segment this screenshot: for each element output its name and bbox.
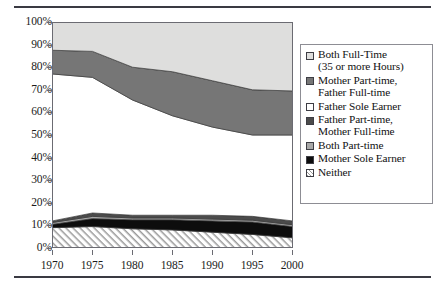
legend-item-father-sole-earner[interactable]: Father Sole Earner <box>306 100 430 112</box>
x-axis-tick-label: 1995 <box>232 259 272 271</box>
y-axis-tick-label: 40% <box>6 152 52 163</box>
x-axis: 1970197519801985199019952000 <box>0 250 310 274</box>
y-axis-tick-label: 60% <box>6 106 52 117</box>
x-axis-tick-label: 1970 <box>32 259 72 271</box>
legend-label-mother-part-time-father-full-time: Mother Part-time, Father Full-time <box>318 74 397 99</box>
x-axis-tick-label: 1990 <box>192 259 232 271</box>
legend-item-father-part-time-mother-full-time[interactable]: Father Part-time, Mother Full-time <box>306 113 430 138</box>
y-axis-tick-mark <box>47 248 52 249</box>
legend-swatch-icon-father-part-time-mother-full-time <box>306 117 314 125</box>
y-axis-tick-label: 30% <box>6 174 52 185</box>
legend-swatch-icon-mother-part-time-father-full-time <box>306 77 314 85</box>
y-axis: 100%90%80%70%60%50%40%30%20%10%0% <box>0 0 52 289</box>
x-axis-tick-label: 1975 <box>72 259 112 271</box>
x-axis-tick-mark <box>92 250 93 255</box>
top-rule <box>14 6 431 8</box>
legend-label-both-part-time: Both Part-time <box>318 139 383 151</box>
legend-item-neither[interactable]: Neither <box>306 166 430 178</box>
legend-label-mother-sole-earner: Mother Sole Earner <box>318 152 405 164</box>
plot-area <box>52 22 293 248</box>
y-axis-tick-label: 80% <box>6 61 52 72</box>
x-axis-tick-mark <box>132 250 133 255</box>
y-axis-tick-label: 70% <box>6 84 52 95</box>
legend-item-both-part-time[interactable]: Both Part-time <box>306 139 430 151</box>
legend-swatch-icon-both-full-time <box>306 52 314 60</box>
legend-label-neither: Neither <box>318 166 351 178</box>
y-axis-tick-label: 100% <box>6 16 52 27</box>
area-series-group <box>53 22 293 248</box>
x-axis-tick-mark <box>172 250 173 255</box>
y-axis-tick-label: 10% <box>6 219 52 230</box>
legend-label-father-part-time-mother-full-time: Father Part-time, Mother Full-time <box>318 113 395 138</box>
x-axis-tick-label: 1985 <box>152 259 192 271</box>
y-axis-tick-label: 90% <box>6 39 52 50</box>
legend-swatch-icon-neither <box>306 169 314 177</box>
x-axis-tick-mark <box>212 250 213 255</box>
legend-item-mother-sole-earner[interactable]: Mother Sole Earner <box>306 152 430 164</box>
x-axis-tick-label: 1980 <box>112 259 152 271</box>
y-axis-tick-label: 50% <box>6 129 52 140</box>
x-axis-tick-mark <box>52 250 53 255</box>
x-axis-tick-mark <box>292 250 293 255</box>
legend-item-mother-part-time-father-full-time[interactable]: Mother Part-time, Father Full-time <box>306 74 430 99</box>
legend-swatch-icon-father-sole-earner <box>306 103 314 111</box>
legend-swatch-icon-both-part-time <box>306 142 314 150</box>
y-axis-tick-label: 20% <box>6 197 52 208</box>
x-axis-tick-mark <box>252 250 253 255</box>
bottom-rule <box>14 276 431 278</box>
legend-item-both-full-time[interactable]: Both Full-Time (35 or more Hours) <box>306 48 430 73</box>
legend-swatch-icon-mother-sole-earner <box>306 156 314 164</box>
figure: 100%90%80%70%60%50%40%30%20%10%0% 197019… <box>0 0 445 289</box>
legend-label-father-sole-earner: Father Sole Earner <box>318 100 401 112</box>
x-axis-tick-label: 2000 <box>272 259 312 271</box>
stacked-area-chart <box>52 22 293 248</box>
legend-label-both-full-time: Both Full-Time (35 or more Hours) <box>318 48 404 73</box>
legend: Both Full-Time (35 or more Hours)Mother … <box>300 44 433 204</box>
